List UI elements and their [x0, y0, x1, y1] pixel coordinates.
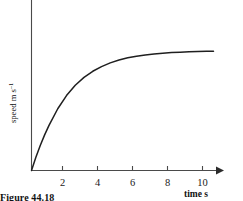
speed-curve: [32, 51, 214, 170]
x-tick-label-0: 2: [60, 177, 65, 188]
figure-container: 2 4 6 8 10 speed m s–1 time s Figure 44.…: [0, 0, 243, 201]
x-tick-label-1: 4: [95, 177, 101, 188]
x-tick-label-3: 8: [165, 177, 170, 188]
x-axis-tick-labels: 2 4 6 8 10: [60, 177, 208, 188]
y-axis-label-text: speed m s: [8, 88, 18, 123]
x-tick-label-2: 6: [130, 177, 135, 188]
x-tick-label-4: 10: [197, 177, 208, 188]
y-axis-label: speed m s–1: [7, 83, 18, 123]
speed-time-chart: 2 4 6 8 10 speed m s–1 time s: [0, 0, 243, 201]
x-axis-ticks: [63, 166, 203, 171]
figure-caption: Figure 44.18: [0, 193, 54, 201]
x-axis-arrow-icon: [216, 167, 224, 175]
y-axis-label-exponent: –1: [7, 83, 14, 90]
x-axis-label: time s: [184, 189, 208, 199]
